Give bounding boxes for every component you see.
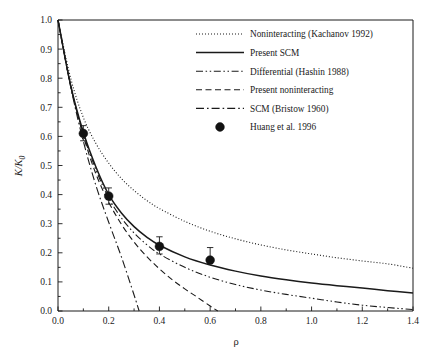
series-curve (58, 20, 413, 268)
series-curve (58, 20, 413, 310)
y-axis-ticks (58, 20, 63, 311)
axis-frame-path (58, 20, 413, 311)
legend-item-label: Present noninteracting (250, 85, 334, 95)
x-tick-label: 1.2 (356, 316, 368, 326)
y-tick-label: 0.8 (40, 74, 52, 84)
y-tick-label: 0.9 (40, 45, 52, 55)
legend-item: Noninteracting (Kachanov 1992) (196, 29, 373, 40)
legend-item-label: Noninteracting (Kachanov 1992) (250, 29, 373, 40)
data-points-huang (79, 126, 215, 265)
x-axis-ticks (58, 307, 413, 312)
data-point-with-error (206, 248, 215, 265)
y-tick-label: 0.0 (40, 306, 52, 316)
series-curve (58, 20, 218, 311)
chart-plot-area: 0.00.20.40.60.81.01.21.4 0.00.10.20.30.4… (0, 0, 438, 354)
x-axis-tick-labels: 0.00.20.40.60.81.01.21.4 (52, 316, 419, 326)
series-curve (58, 20, 139, 311)
x-axis-title: ρ (233, 336, 238, 347)
y-tick-label: 0.2 (40, 248, 52, 258)
legend-marker-icon (216, 123, 225, 132)
x-tick-label: 0.0 (52, 316, 64, 326)
legend-item-label: Differential (Hashin 1988) (250, 67, 349, 78)
legend-item: Huang et al. 1996 (216, 122, 317, 132)
y-tick-label: 1.0 (40, 15, 52, 25)
y-tick-label: 0.5 (40, 161, 52, 171)
chart-legend: Noninteracting (Kachanov 1992)Present SC… (196, 29, 373, 132)
chart-figure: 0.00.20.40.60.81.01.21.4 0.00.10.20.30.4… (0, 0, 438, 354)
data-point-with-error (155, 237, 164, 254)
x-tick-label: 0.8 (255, 316, 267, 326)
x-tick-label: 1.4 (407, 316, 419, 326)
x-tick-label: 1.0 (306, 316, 318, 326)
data-point-marker (79, 129, 88, 138)
legend-item: Present noninteracting (196, 85, 334, 95)
legend-item-label: SCM (Bristow 1960) (250, 104, 329, 115)
y-axis-tick-labels: 0.00.10.20.30.40.50.60.70.80.91.0 (40, 15, 52, 316)
legend-item-label: Present SCM (250, 48, 299, 58)
y-tick-label: 0.6 (40, 132, 52, 142)
y-axis-title: K/K0 (13, 155, 27, 177)
y-tick-label: 0.1 (40, 277, 52, 287)
x-tick-label: 0.2 (103, 316, 115, 326)
y-axis-title-group: K/K0 (13, 155, 27, 177)
y-tick-label: 0.7 (40, 103, 52, 113)
legend-item: Differential (Hashin 1988) (196, 67, 349, 78)
legend-item: SCM (Bristow 1960) (196, 104, 329, 115)
series-curve (58, 20, 413, 293)
legend-item: Present SCM (196, 48, 299, 58)
data-point-marker (206, 256, 215, 265)
y-tick-label: 0.4 (40, 190, 52, 200)
axes-frame (58, 20, 413, 311)
y-tick-label: 0.3 (40, 219, 52, 229)
data-point-marker (155, 242, 164, 251)
data-series-curves (58, 20, 413, 311)
x-tick-label: 0.6 (204, 316, 216, 326)
data-point-marker (104, 192, 113, 201)
legend-item-label: Huang et al. 1996 (250, 122, 316, 132)
x-tick-label: 0.4 (153, 316, 165, 326)
